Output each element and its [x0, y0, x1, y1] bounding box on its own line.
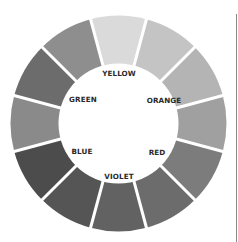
- page-edge-rule: [236, 14, 237, 242]
- color-wheel-diagram: YELLOW ORANGE RED VIOLET BLUE GREEN: [0, 0, 238, 242]
- label-yellow: YELLOW: [101, 69, 136, 78]
- center-white-circle: [59, 64, 179, 184]
- label-violet: VIOLET: [104, 172, 133, 181]
- label-orange: ORANGE: [147, 96, 182, 105]
- label-green: GREEN: [69, 95, 97, 104]
- label-red: RED: [149, 148, 166, 157]
- label-blue: BLUE: [72, 147, 93, 156]
